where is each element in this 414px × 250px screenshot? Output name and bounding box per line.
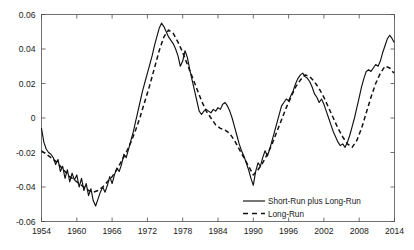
x-tick-label: 1960: [67, 226, 86, 236]
x-tick-label: 1966: [103, 226, 122, 236]
y-tick-label: -0.04: [16, 182, 36, 192]
line-chart: 0.060.040.020-0.02-0.04-0.06 19541960196…: [0, 0, 414, 250]
data-series: [42, 23, 394, 206]
x-tick-label: 2008: [350, 226, 369, 236]
x-tick-label: 1984: [208, 226, 227, 236]
x-tick-label: 1954: [32, 226, 51, 236]
legend-label: Short-Run plus Long-Run: [268, 197, 361, 206]
x-axis-tick-labels: 1954196019661972197819841990199620022008…: [32, 226, 404, 236]
chart-legend: Short-Run plus Long-RunLong-Run: [243, 197, 361, 219]
chart-figure: 0.060.040.020-0.02-0.04-0.06 19541960196…: [0, 0, 414, 250]
x-tick-label: 1978: [173, 226, 192, 236]
x-tick-label: 1996: [279, 226, 298, 236]
y-tick-label: 0: [31, 113, 36, 123]
x-tick-label: 2002: [314, 226, 333, 236]
axis-ticks: [42, 15, 395, 222]
plot-axes: [42, 15, 395, 222]
x-tick-label: 1990: [244, 226, 263, 236]
y-tick-label: -0.02: [16, 148, 36, 158]
y-tick-label: 0.02: [19, 79, 36, 89]
x-tick-label: 2014: [385, 226, 404, 236]
y-tick-label: 0.06: [19, 10, 36, 20]
series-line-solid: [42, 23, 394, 206]
y-axis-tick-labels: 0.060.040.020-0.02-0.04-0.06: [16, 10, 36, 227]
series-line-dashed: [42, 30, 394, 192]
y-tick-label: 0.04: [19, 44, 36, 54]
legend-label: Long-Run: [268, 210, 304, 219]
x-tick-label: 1972: [138, 226, 157, 236]
